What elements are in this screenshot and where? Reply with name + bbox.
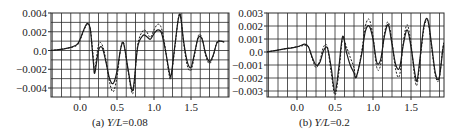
y-tick-label: −0.002 (232, 72, 263, 84)
plot-frame (51, 13, 229, 97)
figure: 0.0040.0020.0−0.002−0.0040.00.51.01.5(a)… (0, 0, 457, 134)
grid (51, 13, 229, 97)
y-tick-label: 0.002 (22, 26, 47, 38)
chart-caption: (a) Y/L=0.08 (92, 116, 148, 129)
y-tick-label: −0.004 (16, 82, 47, 94)
y-tick-label: 0.003 (238, 7, 263, 19)
chart-caption: (b) Y/L=0.2 (299, 116, 350, 129)
y-tick-label: −0.003 (232, 85, 263, 97)
x-tick-label: 1.5 (184, 101, 198, 113)
series-line-solid (50, 14, 224, 91)
y-tick-label: 0.001 (238, 33, 263, 45)
x-tick-label: 1.5 (404, 101, 418, 113)
x-tick-label: 0.0 (73, 101, 87, 113)
x-tick-label: 1.0 (366, 101, 380, 113)
series-line-dashed (267, 19, 446, 95)
x-tick-label: 1.0 (147, 101, 161, 113)
y-tick-label: −0.001 (232, 59, 263, 71)
y-tick-label: 0.002 (238, 20, 263, 32)
series-line-solid (267, 18, 446, 92)
chart-panel-a: 0.0040.0020.0−0.002−0.0040.00.51.01.5(a)… (16, 7, 229, 129)
chart-panel-b: 0.0030.0020.0010.0−0.001−0.002−0.0030.00… (232, 7, 445, 129)
y-tick-label: 0.0 (33, 45, 47, 57)
y-tick-label: −0.002 (16, 63, 47, 75)
x-tick-label: 0.0 (290, 101, 304, 113)
x-tick-label: 0.5 (328, 101, 342, 113)
y-tick-label: 0.004 (22, 7, 47, 19)
x-tick-label: 0.5 (110, 101, 124, 113)
y-tick-label: 0.0 (249, 46, 263, 58)
